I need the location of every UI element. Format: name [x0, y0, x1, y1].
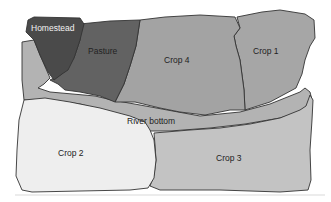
- label-crop-2: Crop 2: [58, 148, 84, 158]
- farm-map: Homestead Pasture Crop 4 Crop 1 River bo…: [0, 0, 331, 202]
- label-pasture: Pasture: [88, 46, 118, 56]
- label-crop-3: Crop 3: [216, 153, 242, 163]
- label-crop-1: Crop 1: [253, 46, 279, 56]
- label-river-bottom: River bottom: [127, 116, 175, 126]
- ground-shadow: [15, 194, 325, 196]
- label-crop-4: Crop 4: [164, 55, 190, 65]
- label-homestead: Homestead: [31, 23, 75, 33]
